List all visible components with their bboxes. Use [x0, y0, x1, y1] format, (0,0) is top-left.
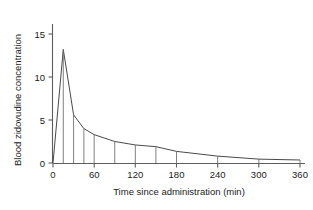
y-tick-labels: 0 5 10 15 — [34, 29, 45, 169]
x-tick-labels: 0 60 120 180 240 300 360 — [50, 169, 308, 180]
figure-container: Blood zidovudine concentration 0 5 10 15 — [0, 0, 313, 210]
y-tick-label-10: 10 — [34, 72, 45, 83]
x-tick-marks — [53, 164, 300, 168]
x-tick-label-180: 180 — [169, 169, 185, 180]
concentration-curve — [53, 49, 300, 163]
y-axis-title: Blood zidovudine concentration — [12, 34, 23, 166]
trapezoid-dividers — [63, 49, 300, 163]
y-tick-label-5: 5 — [40, 115, 45, 126]
x-tick-label-300: 300 — [251, 169, 267, 180]
x-tick-label-0: 0 — [50, 169, 55, 180]
x-tick-label-240: 240 — [210, 169, 226, 180]
y-tick-label-15: 15 — [34, 29, 45, 40]
y-tick-label-0: 0 — [40, 158, 45, 169]
x-tick-label-360: 360 — [292, 169, 308, 180]
x-tick-label-60: 60 — [89, 169, 100, 180]
x-axis-title: Time since administration (min) — [113, 186, 245, 197]
concentration-time-chart: Blood zidovudine concentration 0 5 10 15 — [0, 0, 313, 210]
x-tick-label-120: 120 — [127, 169, 143, 180]
y-tick-marks — [49, 34, 53, 163]
